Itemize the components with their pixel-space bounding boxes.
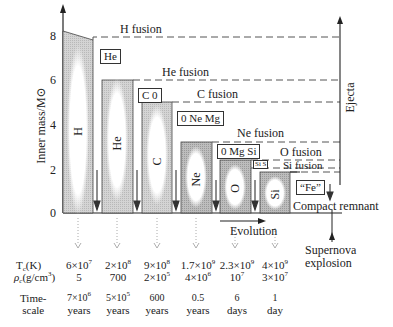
compact-remnant-label: Compact remnant: [293, 200, 379, 212]
core-box-fe: “Fe”: [296, 180, 325, 195]
fusion-label-he: He fusion: [162, 66, 209, 78]
fusion-label-o: O fusion: [280, 146, 322, 158]
shell-label-c: C: [150, 154, 165, 170]
y-tick-6: 6: [50, 74, 56, 86]
y-tick-8: 8: [50, 30, 56, 42]
table-column-h: 6×107 5 7×106 years: [62, 259, 96, 316]
y-tick-4: 4: [50, 119, 56, 131]
shell-label-o: O: [228, 181, 243, 197]
shell-label-h: H: [71, 124, 86, 140]
supernova-arrow: [329, 210, 335, 242]
core-box-onemg: 0 Ne Mg: [177, 111, 224, 126]
evolution-label: Evolution: [230, 225, 277, 237]
explosion-label: explosion: [305, 257, 352, 269]
y-tick-0: 0: [50, 207, 56, 219]
shell-label-he: He: [110, 136, 125, 152]
stellar-evolution-diagram: 8 6 4 2 0 Inner mass/M⊙ H fusion He fusi…: [0, 0, 393, 327]
shell-label-si: Si: [268, 187, 283, 203]
fusion-label-h: H fusion: [120, 23, 162, 35]
y-tick-2: 2: [50, 164, 56, 176]
fusion-label-si: Si fusion: [283, 159, 322, 171]
supernova-label: Supernova: [305, 244, 356, 256]
core-box-he: He: [100, 49, 121, 64]
table-column-he: 2×108 700 5×105 years: [101, 259, 135, 316]
row-label-temperature: Tc(K): [16, 259, 41, 271]
table-column-si: 4×109 3×107 1 day: [258, 259, 292, 316]
column-pointer-heads: [75, 243, 278, 248]
table-column-c: 9×108 2×105 600 years: [140, 259, 174, 316]
core-box-co: C 0: [138, 88, 162, 103]
shell-label-ne: Ne: [189, 172, 204, 188]
ejecta-label: Ejecta: [343, 73, 358, 123]
table-column-ne: 1.7×109 4×106 0.5 years: [179, 259, 217, 316]
fusion-label-ne: Ne fusion: [237, 127, 284, 139]
table-column-o: 2.3×109 107 6 days: [218, 259, 256, 316]
fusion-label-c: C fusion: [197, 88, 238, 100]
row-label-timescale: Time- scale: [20, 292, 47, 316]
core-box-omgsi: 0 Mg Si: [217, 144, 260, 159]
core-box-sis: Si S: [253, 160, 268, 169]
y-axis-label: Inner mass/M⊙: [34, 81, 49, 171]
row-label-density: ρc(g/cm3): [14, 271, 55, 283]
